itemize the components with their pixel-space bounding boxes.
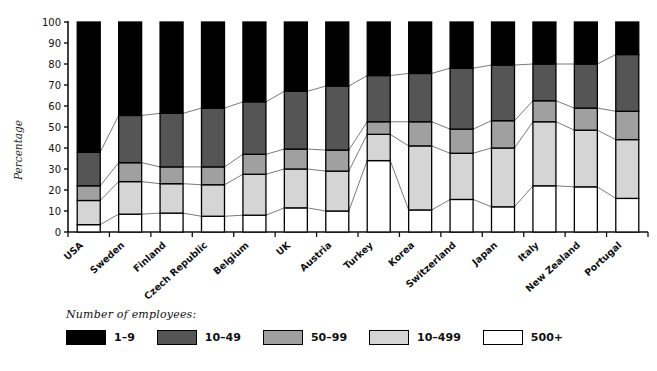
bar-segment[interactable] — [77, 225, 100, 232]
legend-item[interactable]: 10–499 — [369, 330, 461, 345]
bar-segment[interactable] — [284, 169, 307, 208]
bar-segment[interactable] — [284, 208, 307, 232]
bar-segment[interactable] — [450, 199, 473, 232]
bar-segment[interactable] — [284, 22, 307, 91]
bar-segment[interactable] — [367, 76, 390, 122]
bar-segment[interactable] — [492, 207, 515, 232]
bar-segment[interactable] — [450, 129, 473, 153]
bar-segment[interactable] — [326, 86, 349, 150]
bar-segment[interactable] — [533, 122, 556, 186]
bar-segment[interactable] — [533, 64, 556, 101]
legend-item[interactable]: 1–9 — [66, 330, 135, 345]
bar-segment[interactable] — [450, 153, 473, 199]
bar-segment[interactable] — [77, 201, 100, 225]
bar-segment[interactable] — [202, 22, 225, 108]
connector-line — [100, 214, 118, 225]
connector-line — [515, 64, 533, 65]
connector-line — [183, 184, 201, 185]
x-tick-label: Sweden — [88, 239, 127, 275]
bar-segment[interactable] — [160, 167, 183, 184]
legend-label: 10–499 — [417, 331, 461, 344]
bar-segment[interactable] — [367, 134, 390, 160]
bar-segment[interactable] — [409, 210, 432, 232]
bar-segment[interactable] — [243, 215, 266, 232]
bar-segment[interactable] — [119, 182, 142, 215]
connector-line — [225, 154, 243, 167]
bar-segment[interactable] — [77, 152, 100, 186]
bar-segment[interactable] — [492, 22, 515, 65]
bar-segment[interactable] — [367, 22, 390, 76]
bar-segment[interactable] — [492, 148, 515, 207]
bar-segment[interactable] — [616, 55, 639, 112]
bar-segment[interactable] — [119, 22, 142, 115]
bar-segment[interactable] — [243, 102, 266, 155]
bar-segment[interactable] — [533, 22, 556, 64]
bar-segment[interactable] — [616, 111, 639, 139]
bar-segment[interactable] — [326, 171, 349, 211]
bar-segment[interactable] — [616, 140, 639, 199]
connector-line — [556, 186, 574, 187]
x-tick-label: Italy — [516, 239, 542, 264]
bar-segment[interactable] — [160, 213, 183, 232]
x-axis — [68, 232, 648, 237]
bar-segment[interactable] — [119, 214, 142, 232]
connector-line — [100, 163, 118, 186]
bar-segment[interactable] — [77, 186, 100, 201]
bar-segment[interactable] — [326, 22, 349, 86]
bar-segment[interactable] — [160, 22, 183, 113]
bar-segment[interactable] — [574, 108, 597, 130]
legend-title: Number of employees: — [66, 308, 646, 321]
legend-item[interactable]: 10–49 — [157, 330, 241, 345]
x-tick-label: Japan — [469, 239, 500, 268]
bar-segment[interactable] — [202, 108, 225, 167]
bar-segment[interactable] — [243, 174, 266, 215]
connector-line — [266, 169, 284, 174]
bar-segment[interactable] — [243, 22, 266, 102]
bar-segment[interactable] — [202, 167, 225, 185]
bar-segment[interactable] — [450, 68, 473, 129]
bar-segment[interactable] — [616, 198, 639, 232]
bar-segment[interactable] — [202, 185, 225, 217]
bar-segment[interactable] — [367, 161, 390, 232]
bar-segment[interactable] — [574, 64, 597, 108]
bar-segment[interactable] — [77, 22, 100, 152]
connector-line — [556, 122, 574, 130]
y-tick-label: 50 — [48, 122, 61, 133]
legend-swatch — [66, 330, 106, 345]
x-tick-label: Finland — [131, 239, 168, 274]
bar-segment[interactable] — [409, 73, 432, 121]
bar-segment[interactable] — [409, 146, 432, 210]
bar-segment[interactable] — [284, 91, 307, 149]
bar-segment[interactable] — [616, 22, 639, 55]
legend-swatch — [157, 330, 197, 345]
bar-segment[interactable] — [160, 113, 183, 167]
bar-segment[interactable] — [450, 22, 473, 68]
bar-segment[interactable] — [533, 101, 556, 122]
connector-line — [556, 101, 574, 108]
legend-item[interactable]: 50–99 — [263, 330, 347, 345]
connector-line — [266, 91, 284, 102]
bar-segment[interactable] — [119, 115, 142, 162]
bar-segment[interactable] — [574, 187, 597, 232]
y-tick-label: 20 — [48, 185, 61, 196]
bar-segment[interactable] — [492, 121, 515, 148]
connector-line — [307, 149, 325, 150]
bar-segment[interactable] — [367, 122, 390, 135]
connector-line — [597, 108, 615, 111]
bar-segment[interactable] — [119, 163, 142, 182]
bar-segment[interactable] — [409, 122, 432, 146]
connector-line — [515, 101, 533, 121]
bar-segment[interactable] — [326, 211, 349, 232]
bar-segment[interactable] — [326, 150, 349, 171]
bar-segment[interactable] — [160, 184, 183, 213]
bar-segment[interactable] — [243, 154, 266, 174]
bar-segment[interactable] — [202, 216, 225, 232]
bar-segment[interactable] — [574, 22, 597, 64]
bar-segment[interactable] — [533, 186, 556, 232]
bar-segment[interactable] — [574, 130, 597, 187]
legend-item[interactable]: 500+ — [483, 330, 563, 345]
connector-line — [473, 65, 491, 68]
bar-segment[interactable] — [492, 65, 515, 121]
bar-segment[interactable] — [409, 22, 432, 73]
bar-segment[interactable] — [284, 149, 307, 169]
